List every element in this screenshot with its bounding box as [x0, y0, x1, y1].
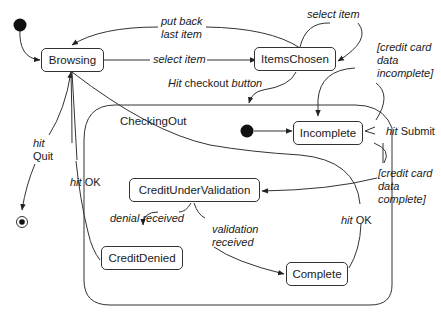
state-credit-denied[interactable]: CreditDenied: [101, 246, 183, 270]
initial-state-icon: [14, 19, 27, 32]
label-credit-card-incomplete: [credit card data incomplete]: [377, 41, 433, 80]
state-credit-under-validation[interactable]: CreditUnderValidation: [129, 178, 260, 202]
state-checking-out-label: CheckingOut: [120, 115, 186, 127]
state-complete[interactable]: Complete: [286, 262, 348, 286]
label-put-back-last-item: put back last item: [161, 15, 203, 41]
label-denial-received: denial received: [110, 212, 184, 225]
state-diagram: Browsing ItemsChosen CheckingOut Incompl…: [0, 0, 441, 316]
label-validation-received: validation received: [212, 223, 258, 249]
state-items-chosen[interactable]: ItemsChosen: [254, 47, 336, 71]
label-hit-checkout-button: Hit checkout button: [168, 77, 262, 90]
label-hit-ok-right: hit OK: [341, 214, 372, 227]
label-hit-quit: hit Quit: [33, 137, 53, 163]
label-credit-card-complete: [credit card data complete]: [378, 167, 432, 206]
label-hit-submit: hit Submit: [386, 125, 435, 138]
state-incomplete[interactable]: Incomplete: [293, 121, 363, 145]
label-select-item-browsing: select item: [153, 53, 206, 66]
initial-substate-icon: [241, 125, 254, 138]
state-browsing[interactable]: Browsing: [41, 48, 104, 72]
label-hit-ok-left: hit OK: [70, 176, 101, 189]
label-select-item-self: select item: [307, 8, 360, 21]
